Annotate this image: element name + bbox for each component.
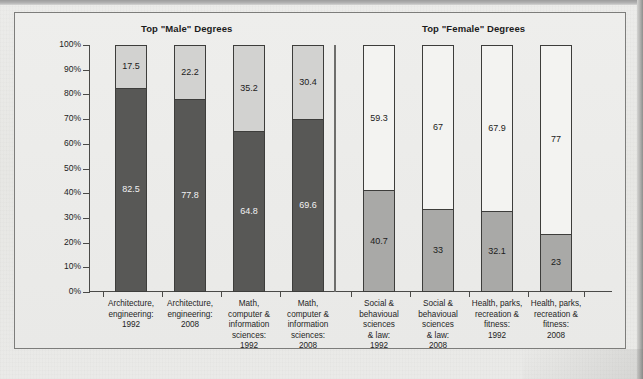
bar-segment-upper: 67.9 bbox=[482, 46, 512, 212]
bar-value-upper: 59.3 bbox=[370, 114, 388, 123]
y-tick-label: 10% bbox=[41, 262, 81, 271]
y-tick-mark bbox=[83, 45, 90, 46]
bar-4: 30.469.6 bbox=[292, 45, 324, 292]
bar-segment-lower: 40.7 bbox=[364, 191, 394, 291]
y-axis-labels: 0%10%20%30%40%50%60%70%80%90%100% bbox=[35, 13, 81, 350]
x-tick-mark bbox=[162, 291, 163, 297]
group-divider bbox=[334, 45, 336, 292]
x-tick-mark bbox=[351, 291, 352, 297]
bar-segment-lower: 69.6 bbox=[293, 120, 323, 291]
bar-value-lower: 33 bbox=[433, 246, 443, 255]
y-tick-label: 40% bbox=[41, 188, 81, 197]
y-tick-mark bbox=[83, 292, 90, 293]
y-tick-label: 70% bbox=[41, 114, 81, 123]
y-tick-label: 100% bbox=[41, 40, 81, 49]
y-tick-label: 80% bbox=[41, 89, 81, 98]
x-tick-mark bbox=[280, 291, 281, 297]
bar-7: 67.932.1 bbox=[481, 45, 513, 292]
y-tick-mark bbox=[83, 94, 90, 95]
bar-segment-lower: 23 bbox=[541, 235, 571, 291]
x-tick-mark bbox=[410, 291, 411, 297]
group-title-male: Top "Male" Degrees bbox=[141, 23, 232, 34]
bar-segment-lower: 32.1 bbox=[482, 212, 512, 291]
x-tick-mark bbox=[221, 291, 222, 297]
bar-segment-upper: 35.2 bbox=[234, 46, 264, 132]
x-tick-mark bbox=[103, 291, 104, 297]
bar-value-upper: 35.2 bbox=[240, 84, 258, 93]
x-category-label: Math, computer & information sciences: 2… bbox=[273, 299, 343, 352]
figure-caption bbox=[120, 367, 540, 378]
y-tick-mark bbox=[83, 218, 90, 219]
y-tick-mark bbox=[83, 70, 90, 71]
y-tick-label: 20% bbox=[41, 238, 81, 247]
group-title-female: Top "Female" Degrees bbox=[422, 23, 525, 34]
bar-value-lower: 64.8 bbox=[240, 207, 258, 216]
y-tick-mark bbox=[83, 243, 90, 244]
bar-value-upper: 77 bbox=[551, 135, 561, 144]
y-tick-label: 30% bbox=[41, 213, 81, 222]
bar-segment-upper: 17.5 bbox=[116, 46, 146, 89]
bar-segment-upper: 59.3 bbox=[364, 46, 394, 191]
bar-segment-upper: 22.2 bbox=[175, 46, 205, 100]
bar-value-lower: 69.6 bbox=[299, 201, 317, 210]
bar-segment-lower: 77.8 bbox=[175, 100, 205, 291]
scan-corner-shadow bbox=[523, 349, 643, 379]
y-tick-mark bbox=[83, 267, 90, 268]
bar-8: 7723 bbox=[540, 45, 572, 292]
bar-segment-lower: 82.5 bbox=[116, 89, 146, 291]
scan-right-edge bbox=[637, 0, 643, 379]
bar-value-lower: 40.7 bbox=[370, 237, 388, 246]
chart-frame: Top "Male" Degrees Top "Female" Degrees … bbox=[14, 12, 626, 349]
bar-6: 6733 bbox=[422, 45, 454, 292]
y-tick-label: 60% bbox=[41, 139, 81, 148]
bar-value-lower: 77.8 bbox=[181, 191, 199, 200]
bar-value-lower: 23 bbox=[551, 258, 561, 267]
y-tick-label: 50% bbox=[41, 164, 81, 173]
bar-value-upper: 22.2 bbox=[181, 68, 199, 77]
y-tick-mark bbox=[83, 169, 90, 170]
bar-segment-lower: 64.8 bbox=[234, 132, 264, 291]
bar-value-upper: 17.5 bbox=[122, 62, 140, 71]
scan-top-edge bbox=[0, 0, 643, 5]
x-category-label: Health, parks, recreation & fitness: 200… bbox=[521, 299, 591, 341]
bar-value-lower: 32.1 bbox=[488, 247, 506, 256]
y-tick-label: 0% bbox=[41, 287, 81, 296]
x-tick-mark bbox=[584, 291, 585, 297]
plot-area: Top "Male" Degrees Top "Female" Degrees … bbox=[15, 13, 627, 350]
bar-value-lower: 82.5 bbox=[122, 185, 140, 194]
bar-segment-upper: 67 bbox=[423, 46, 453, 210]
x-tick-mark bbox=[469, 291, 470, 297]
bar-5: 59.340.7 bbox=[363, 45, 395, 292]
bar-value-upper: 67.9 bbox=[488, 124, 506, 133]
x-tick-mark bbox=[528, 291, 529, 297]
y-tick-mark bbox=[83, 119, 90, 120]
y-tick-mark bbox=[83, 193, 90, 194]
bar-value-upper: 67 bbox=[433, 123, 443, 132]
bar-3: 35.264.8 bbox=[233, 45, 265, 292]
bar-2: 22.277.8 bbox=[174, 45, 206, 292]
bar-value-upper: 30.4 bbox=[299, 78, 317, 87]
bar-segment-lower: 33 bbox=[423, 210, 453, 291]
bar-segment-upper: 77 bbox=[541, 46, 571, 235]
bar-1: 17.582.5 bbox=[115, 45, 147, 292]
bar-segment-upper: 30.4 bbox=[293, 46, 323, 120]
y-tick-mark bbox=[83, 144, 90, 145]
y-tick-label: 90% bbox=[41, 65, 81, 74]
